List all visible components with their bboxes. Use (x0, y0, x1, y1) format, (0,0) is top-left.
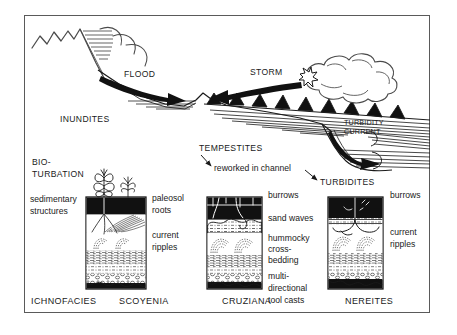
footer-nereites-label: NEREITES (345, 296, 393, 306)
cross-label: cross- (268, 245, 291, 255)
nereites-column-graphic (328, 197, 383, 289)
sand-waves-label: sand waves (268, 214, 313, 224)
mountain-range (32, 29, 104, 78)
flood-arrow (99, 76, 186, 106)
turbidity-current-label-line1: TURBIDITY (344, 119, 384, 127)
figure-root: FLOOD STORM INUNDITES TEMPESTITES rework… (0, 0, 457, 335)
sedimentary-label-line1: sedimentary (30, 195, 77, 205)
inundites-label: INUNDITES (60, 115, 109, 125)
multi-label: multi- (268, 272, 289, 282)
turbidites-label: TURBIDITES (320, 178, 375, 188)
turbidity-current-label-line2: CURRENT (344, 128, 381, 136)
footer-scoyenia-label: SCOYENIA (119, 296, 169, 306)
sedimentary-label-line2: structures (30, 207, 68, 217)
biotubation-label-line2: TURBATION (32, 170, 84, 180)
cruziana-column-graphic (207, 197, 262, 289)
storm-label: STORM (250, 68, 283, 78)
scoyenia-column-graphic (86, 169, 146, 289)
rainfall-hatching (80, 29, 113, 74)
flood-label: FLOOD (124, 70, 155, 80)
plant-large (94, 169, 114, 197)
tempestites-label: TEMPESTITES (199, 144, 263, 154)
plant-small (121, 177, 135, 197)
roots-label: roots (152, 206, 171, 216)
paleosol-label: paleosol (152, 194, 184, 204)
footer-ichnofacies-label: ICHNOFACIES (31, 296, 96, 306)
ripples-label: ripples (152, 243, 177, 253)
tool-casts-label: tool casts (268, 296, 304, 306)
biotubation-label-line1: BIO- (32, 158, 51, 168)
directional-label: directional (268, 284, 307, 294)
burrows-label-right: burrows (390, 191, 421, 201)
hummocky-label: hummocky (268, 234, 310, 244)
tempestites-note: reworked in channel (214, 164, 291, 174)
burrows-label: burrows (268, 191, 299, 201)
current-label-right: current (390, 228, 417, 238)
ripples-label-right: ripples (390, 240, 415, 250)
bedding-label: bedding (268, 256, 299, 266)
current-label: current (152, 231, 179, 241)
water-column-ruling (210, 110, 430, 168)
footer-cruziana-label: CRUZIANA (222, 296, 271, 306)
